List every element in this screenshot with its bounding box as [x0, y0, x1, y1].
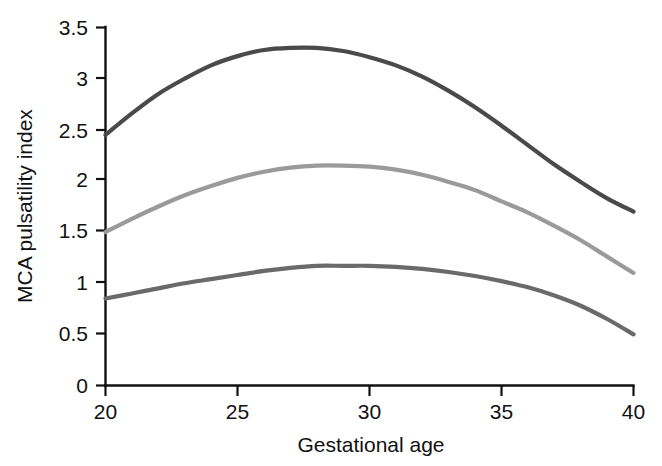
x-tick-label-40: 40	[622, 400, 645, 423]
x-tick-label-35: 35	[490, 400, 513, 423]
x-tick-label-25: 25	[226, 400, 249, 423]
x-tick-label-30: 30	[358, 400, 381, 423]
y-tick-label-0-5: 0.5	[59, 322, 88, 345]
y-tick-label-2: 2	[76, 168, 88, 191]
chart-figure: 0 0.5 1 1.5 2 2.5 3 3.5 20 25 30 35 40 G…	[0, 0, 662, 466]
y-tick-label-0: 0	[76, 374, 88, 397]
chart-plot-area: 0 0.5 1 1.5 2 2.5 3 3.5 20 25 30 35 40 G…	[0, 0, 662, 466]
chart-background	[0, 0, 662, 466]
x-axis-title: Gestational age	[297, 433, 444, 456]
y-tick-label-2-5: 2.5	[59, 119, 88, 142]
y-tick-label-3-5: 3.5	[59, 16, 88, 39]
y-axis-title: MCA pulsatility index	[13, 109, 36, 303]
y-tick-label-3: 3	[76, 67, 88, 90]
x-tick-label-20: 20	[94, 400, 117, 423]
y-tick-label-1-5: 1.5	[59, 219, 88, 242]
y-tick-label-1: 1	[76, 271, 88, 294]
